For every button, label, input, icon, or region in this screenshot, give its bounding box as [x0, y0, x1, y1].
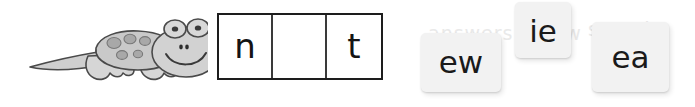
- letter-tile-ie[interactable]: ie: [515, 2, 571, 58]
- word-frame: n t: [217, 13, 383, 80]
- gecko-illustration: [26, 12, 208, 92]
- word-cell-letter: n: [234, 29, 256, 63]
- letter-tile-ew[interactable]: ew: [421, 33, 501, 92]
- word-cell-letter: t: [347, 29, 360, 63]
- word-cell-2-dropzone[interactable]: [273, 15, 327, 78]
- letter-tile-label: ea: [611, 42, 649, 73]
- phonics-activity-canvas: n t answers below sound ew ie ea: [0, 0, 695, 107]
- letter-tile-ea[interactable]: ea: [592, 22, 669, 92]
- word-cell-1[interactable]: n: [219, 15, 273, 78]
- word-cell-3[interactable]: t: [327, 15, 381, 78]
- letter-tile-label: ew: [439, 47, 483, 78]
- letter-tile-label: ie: [529, 16, 557, 47]
